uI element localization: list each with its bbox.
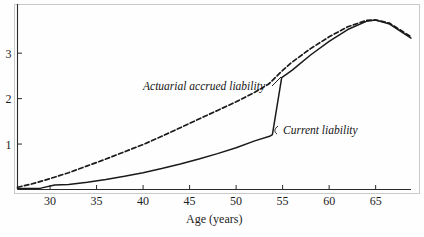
x-axis-title: Age (years) <box>186 212 242 226</box>
chart-series-layer <box>18 20 412 189</box>
chart-figure: 1233035404550556065Age (years) Actuarial… <box>0 0 424 237</box>
y-tick-label: 2 <box>6 92 12 106</box>
x-tick-label: 65 <box>370 194 382 208</box>
x-tick-label: 30 <box>44 194 56 208</box>
line-chart-plot: 1233035404550556065Age (years) Actuarial… <box>0 0 424 237</box>
y-tick-label: 1 <box>6 138 12 152</box>
x-tick-label: 40 <box>137 194 149 208</box>
series-line-actuarial-accrued-liability <box>18 20 412 187</box>
series-annotation-actuarial-accrued-liability: Actuarial accrued liability <box>142 80 266 93</box>
y-tick-label: 3 <box>6 47 12 61</box>
cropped-caption-sliver <box>16 228 316 236</box>
leader-line-current <box>275 126 278 134</box>
x-tick-label: 55 <box>277 194 289 208</box>
x-tick-label: 60 <box>323 194 335 208</box>
chart-annotations-layer: Actuarial accrued liabilityCurrent liabi… <box>142 77 359 137</box>
x-tick-label: 45 <box>184 194 196 208</box>
x-tick-label: 50 <box>230 194 242 208</box>
series-annotation-current-liability: Current liability <box>283 124 359 137</box>
chart-axes: 1233035404550556065Age (years) <box>6 4 412 226</box>
series-line-current-liability <box>18 20 412 189</box>
x-tick-label: 35 <box>91 194 103 208</box>
